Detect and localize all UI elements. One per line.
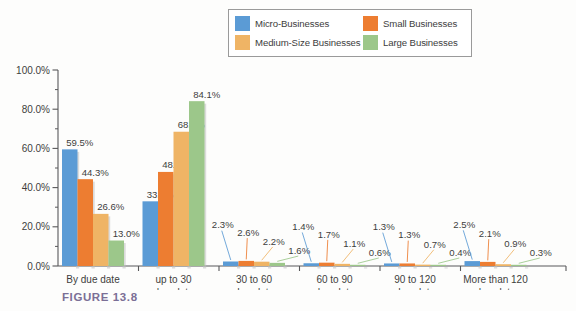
bar-data-label: 2.3%	[212, 219, 234, 230]
bar-shadow	[318, 266, 321, 269]
bar	[304, 263, 320, 266]
x-axis-category-label: More than 120	[463, 274, 528, 285]
bar-data-label: 2.6%	[237, 227, 259, 238]
y-axis-tick-label: 60.0%	[22, 143, 50, 154]
data-label-leader-line	[342, 249, 353, 262]
bar-data-label: 1.4%	[292, 221, 314, 232]
data-label-leader-line	[423, 250, 434, 263]
bar-shadow	[414, 266, 417, 269]
bar	[78, 179, 94, 266]
bar-data-label: 2.2%	[263, 236, 285, 247]
y-axis-tick-label: 0.0%	[27, 261, 50, 272]
data-label-leader-line	[327, 240, 328, 261]
y-axis-tick-label: 100.0%	[16, 65, 50, 76]
bar	[158, 172, 174, 266]
x-axis-category-label: days late	[314, 287, 354, 291]
bar-data-label: 1.3%	[398, 229, 420, 240]
bar	[239, 261, 255, 266]
x-axis-category-label: days late	[395, 287, 435, 291]
bar	[415, 265, 431, 266]
x-axis-category-label: days late	[153, 287, 193, 291]
data-label-leader-line	[519, 258, 540, 263]
bar	[319, 263, 335, 266]
bar	[350, 265, 366, 266]
bar-data-label: 0.4%	[449, 247, 471, 258]
bar-shadow	[398, 266, 401, 269]
y-axis-tick-label: 20.0%	[22, 221, 50, 232]
bar-data-label: 2.5%	[453, 219, 475, 230]
bar-shadow	[525, 267, 528, 268]
bar	[109, 241, 125, 266]
data-label-leader-line	[277, 256, 298, 261]
bar	[496, 264, 512, 266]
bar	[62, 149, 78, 266]
bar-chart-plot: 0.0%20.0%40.0%60.0%80.0%100.0%59.5%44.3%…	[0, 0, 576, 290]
bar-data-label: 0.7%	[424, 239, 446, 250]
bar-data-label: 44.3%	[82, 167, 110, 178]
bar	[254, 262, 270, 266]
x-axis-category-label: 30 to 60	[236, 274, 273, 285]
bar-data-label: 2.1%	[479, 228, 501, 239]
x-axis-category-label: 60 to 90	[316, 274, 353, 285]
bar-data-label: 26.6%	[97, 201, 125, 212]
bar	[480, 262, 496, 266]
y-axis-tick-label: 40.0%	[22, 182, 50, 193]
x-axis-category-label: days late	[234, 287, 274, 291]
x-axis-category-label: 90 to 120	[394, 274, 436, 285]
data-label-leader-line	[503, 249, 514, 262]
bar	[511, 265, 527, 266]
bar	[465, 261, 481, 266]
x-axis-category-label: up to 30	[155, 274, 192, 285]
bar	[223, 261, 239, 266]
bar-data-label: 13.0%	[113, 228, 141, 239]
bar-data-label: 59.5%	[66, 137, 94, 148]
bar-data-label: 1.7%	[318, 229, 340, 240]
bar	[384, 263, 400, 266]
bar	[189, 101, 205, 266]
x-axis-category-label: days late	[475, 287, 515, 291]
bar-data-label: 1.3%	[373, 221, 395, 232]
data-label-leader-line	[438, 258, 459, 263]
bar	[400, 263, 416, 266]
y-axis-tick-label: 80.0%	[22, 104, 50, 115]
data-label-leader-line	[407, 241, 408, 262]
bar-shadow	[445, 267, 448, 268]
bar	[93, 214, 109, 266]
figure-container: Micro-Businesses Small Businesses Medium…	[0, 0, 576, 311]
bar-shadow	[364, 267, 367, 268]
data-label-leader-line	[222, 231, 231, 260]
bar-shadow	[349, 266, 352, 268]
bar-data-label: 84.1%	[193, 89, 221, 100]
bar-data-label: 0.3%	[530, 247, 552, 258]
bar	[335, 264, 351, 266]
bar	[143, 201, 159, 266]
bar	[174, 132, 190, 266]
figure-caption: FIGURE 13.8	[62, 291, 138, 303]
data-label-leader-line	[262, 247, 273, 260]
bar	[431, 265, 447, 266]
bar-data-label: 0.9%	[504, 238, 526, 249]
data-label-leader-line	[358, 258, 379, 263]
data-label-leader-line	[488, 239, 489, 260]
bar-data-label: 1.1%	[343, 238, 365, 249]
bar-shadow	[510, 267, 513, 269]
x-axis-category-label: By due date	[66, 274, 120, 285]
bar-shadow	[429, 267, 432, 268]
data-label-leader-line	[246, 238, 247, 259]
bar	[270, 263, 286, 266]
